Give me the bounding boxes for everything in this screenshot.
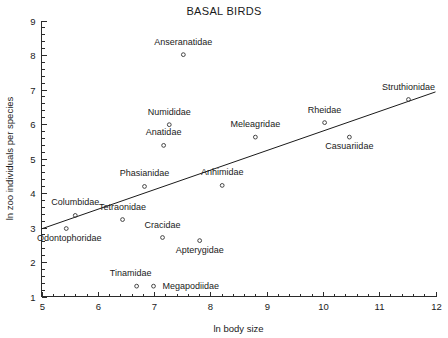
- y-tick-label: 3: [30, 223, 35, 234]
- x-tick-label: 7: [152, 301, 157, 312]
- data-point-marker[interactable]: [253, 135, 257, 139]
- major-tick-group: [42, 22, 437, 298]
- x-axis-title: ln body size: [213, 323, 263, 334]
- x-tick-label: 9: [265, 301, 270, 312]
- data-point-label: Meleagridae: [231, 119, 281, 129]
- data-point-marker[interactable]: [198, 239, 202, 243]
- data-point-label: Rheidae: [308, 105, 342, 115]
- data-point-label: Numididae: [148, 107, 191, 117]
- tick-label-group: 56789101112123456789: [30, 16, 442, 312]
- data-point-marker[interactable]: [167, 123, 171, 127]
- y-tick-label: 1: [30, 292, 35, 303]
- data-point-label: Columbidae: [51, 197, 99, 207]
- y-tick-label: 4: [30, 188, 35, 199]
- data-point-label: Megapodiidae: [163, 281, 220, 291]
- y-tick-label: 9: [30, 16, 35, 27]
- y-tick-label: 5: [30, 154, 35, 165]
- data-point-marker[interactable]: [161, 236, 165, 240]
- y-tick-label: 7: [30, 85, 35, 96]
- data-point-label: Anhimidae: [201, 167, 244, 177]
- data-point-label: Struthionidae: [382, 82, 435, 92]
- data-point-label: Phasianidae: [120, 168, 170, 178]
- data-point-label: Anseranatidae: [154, 37, 212, 47]
- data-point-label: Odontophoridae: [37, 233, 102, 243]
- y-tick-label: 6: [30, 119, 35, 130]
- data-point-label-group: AnseranatidaeNumididaeAnatidaeMeleagrida…: [37, 37, 435, 291]
- scatter-plot-svg: 56789101112123456789 ln body sizeln zoo …: [0, 0, 448, 338]
- data-point-marker[interactable]: [135, 284, 139, 288]
- data-point-label: Cracidae: [144, 220, 180, 230]
- data-point-label: Anatidae: [146, 127, 182, 137]
- x-tick-label: 6: [96, 301, 101, 312]
- data-point-marker[interactable]: [220, 184, 224, 188]
- x-tick-label: 10: [318, 301, 329, 312]
- y-tick-label: 2: [30, 257, 35, 268]
- data-point-label: Tetraonidae: [99, 202, 146, 212]
- data-point-label: Apterygidae: [176, 245, 224, 255]
- data-point-marker[interactable]: [347, 135, 351, 139]
- x-tick-label: 8: [208, 301, 213, 312]
- x-tick-label: 11: [375, 301, 385, 312]
- chart-container: BASAL BIRDS 56789101112123456789 ln body…: [0, 0, 448, 338]
- data-point-marker[interactable]: [64, 227, 68, 231]
- x-tick-label: 12: [431, 301, 442, 312]
- y-axis-title: ln zoo individuals per species: [4, 96, 15, 220]
- data-point-marker[interactable]: [162, 143, 166, 147]
- x-tick-label: 5: [40, 301, 45, 312]
- data-point-marker[interactable]: [181, 53, 185, 57]
- y-tick-label: 8: [30, 50, 35, 61]
- data-point-marker[interactable]: [152, 284, 156, 288]
- data-point-label: Casuariidae: [325, 141, 373, 151]
- axis-group: [42, 21, 436, 297]
- data-point-label: Tinamidae: [110, 268, 152, 278]
- data-point-marker[interactable]: [121, 218, 125, 222]
- data-point-marker[interactable]: [143, 185, 147, 189]
- data-point-marker[interactable]: [323, 121, 327, 125]
